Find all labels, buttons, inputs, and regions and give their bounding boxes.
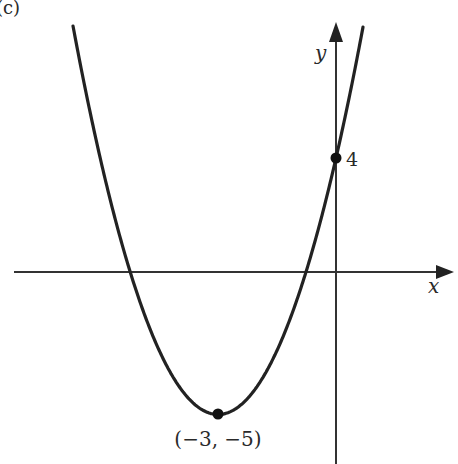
vertex-point: [213, 409, 224, 420]
y-intercept-label: 4: [346, 148, 358, 170]
y-axis-label: y: [314, 41, 327, 65]
panel-label: (c): [0, 0, 20, 18]
y-axis-arrow-icon: [329, 22, 343, 42]
vertex-label: (−3, −5): [174, 427, 261, 451]
parabola-curve: [73, 26, 363, 415]
parabola-graph: (c) x y 4 (−3, −5): [0, 0, 458, 464]
y-intercept-point: [331, 153, 342, 164]
x-axis-label: x: [428, 274, 439, 298]
